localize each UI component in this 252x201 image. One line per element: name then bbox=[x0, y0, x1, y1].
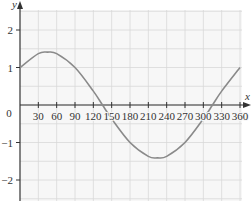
y-tick-label: 1 bbox=[8, 62, 14, 74]
x-tick-label: 90 bbox=[70, 110, 82, 122]
x-tick-label: 120 bbox=[85, 110, 102, 122]
y-axis-arrow-icon bbox=[17, 1, 23, 9]
x-tick-label: 30 bbox=[33, 110, 45, 122]
y-tick-label: −2 bbox=[1, 174, 13, 186]
origin-label: 0 bbox=[6, 107, 12, 119]
x-tick-label: 360 bbox=[232, 110, 249, 122]
chart: 30609012015018021024027030033036021−1−20… bbox=[0, 0, 252, 201]
x-tick-label: 300 bbox=[195, 110, 212, 122]
x-tick-label: 240 bbox=[158, 110, 175, 122]
x-tick-label: 60 bbox=[51, 110, 63, 122]
y-tick-label: 2 bbox=[8, 24, 14, 36]
y-tick-label: −1 bbox=[1, 137, 13, 149]
x-tick-label: 150 bbox=[103, 110, 120, 122]
x-axis-arrow-icon bbox=[243, 102, 251, 108]
x-tick-label: 270 bbox=[177, 110, 194, 122]
x-axis-label: x bbox=[244, 90, 250, 102]
x-tick-label: 180 bbox=[122, 110, 139, 122]
x-tick-label: 330 bbox=[213, 110, 230, 122]
y-axis-label: y bbox=[11, 0, 17, 10]
x-tick-label: 210 bbox=[140, 110, 157, 122]
